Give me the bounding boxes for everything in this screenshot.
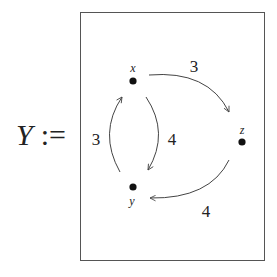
node-dot-icon <box>129 183 136 190</box>
node-label: x <box>129 61 136 75</box>
node-label: z <box>239 123 245 137</box>
arrow-icon <box>150 160 229 198</box>
node-label: y <box>128 194 135 208</box>
edge-y-to-x: 3 <box>92 97 122 172</box>
node-y: y <box>128 183 136 208</box>
weighted-directed-graph: 3 4 3 4 x y z <box>0 0 277 277</box>
edge-weight-label: 4 <box>168 130 177 149</box>
edge-weight-label: 3 <box>190 57 199 76</box>
edge-weight-label: 3 <box>92 130 101 149</box>
arrow-icon <box>149 74 229 112</box>
edge-x-to-z: 3 <box>149 57 229 112</box>
arrow-icon <box>146 97 159 170</box>
node-dot-icon <box>238 138 245 145</box>
edge-x-to-y: 4 <box>146 97 177 170</box>
node-z: z <box>238 123 245 146</box>
node-dot-icon <box>129 77 136 84</box>
arrow-icon <box>109 97 122 172</box>
edge-weight-label: 4 <box>202 202 211 221</box>
node-x: x <box>129 61 136 85</box>
edge-z-to-y: 4 <box>150 160 229 221</box>
